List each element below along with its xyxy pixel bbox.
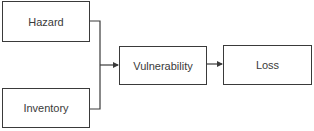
- loss-node: Loss: [223, 45, 312, 85]
- inventory-label: Inventory: [23, 102, 68, 114]
- hazard-node: Hazard: [2, 1, 90, 42]
- inventory-node: Inventory: [2, 88, 90, 128]
- loss-label: Loss: [256, 59, 279, 71]
- hazard-connector: [90, 21, 100, 109]
- vulnerability-label: Vulnerability: [133, 60, 193, 72]
- hazard-label: Hazard: [28, 16, 63, 28]
- vulnerability-node: Vulnerability: [119, 46, 207, 85]
